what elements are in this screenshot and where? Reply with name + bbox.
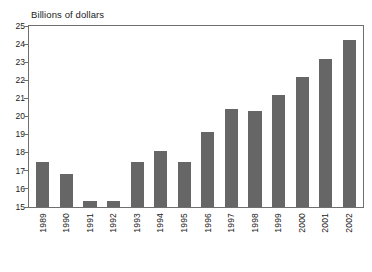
x-axis-tick: 2001	[314, 209, 338, 271]
x-axis-tick-label: 1994	[156, 213, 165, 233]
x-axis-tick-label: 2002	[345, 213, 354, 233]
x-axis-tick-label: 1991	[86, 213, 95, 233]
x-axis-tick: 1998	[243, 209, 267, 271]
bar[interactable]	[178, 162, 191, 207]
bar[interactable]	[343, 40, 356, 207]
x-axis-tick: 2000	[290, 209, 314, 271]
x-axis-tick-label: 1995	[180, 213, 189, 233]
bar[interactable]	[60, 174, 73, 207]
x-axis-tick-label: 2000	[298, 213, 307, 233]
x-axis-tick: 1997	[220, 209, 244, 271]
bar-slot	[125, 26, 149, 207]
x-axis: 1989199019911992199319941995199619971998…	[29, 209, 363, 271]
x-axis-tick: 1994	[149, 209, 173, 271]
bar[interactable]	[201, 132, 214, 207]
y-axis: 1516171819202122232425	[0, 25, 28, 208]
bar-slot	[31, 26, 55, 207]
x-axis-tick-label: 1992	[109, 213, 118, 233]
bar[interactable]	[319, 59, 332, 207]
bar[interactable]	[36, 162, 49, 207]
bar[interactable]	[272, 95, 285, 207]
bar-slot	[314, 26, 338, 207]
x-axis-tick: 1999	[267, 209, 291, 271]
bar-slot	[55, 26, 79, 207]
bar-slot	[149, 26, 173, 207]
x-axis-tick-label: 2001	[321, 213, 330, 233]
x-axis-tick: 2002	[338, 209, 362, 271]
x-axis-tick: 1996	[196, 209, 220, 271]
x-axis-tick-label: 1993	[133, 213, 142, 233]
x-axis-tick-label: 1997	[227, 213, 236, 233]
bar-slot	[220, 26, 244, 207]
bar-chart: Billions of dollars 15161718192021222324…	[0, 0, 372, 272]
bar-slot	[172, 26, 196, 207]
x-axis-tick-label: 1998	[251, 213, 260, 233]
bar[interactable]	[154, 151, 167, 207]
bar-slot	[102, 26, 126, 207]
bar[interactable]	[131, 162, 144, 207]
bar[interactable]	[248, 111, 261, 207]
bar-slot	[338, 26, 362, 207]
bar[interactable]	[83, 201, 96, 207]
bar-slot	[267, 26, 291, 207]
bar[interactable]	[296, 77, 309, 207]
bars-container	[29, 26, 363, 207]
bar[interactable]	[107, 201, 120, 207]
bar[interactable]	[225, 109, 238, 207]
bar-slot	[78, 26, 102, 207]
x-axis-tick: 1991	[78, 209, 102, 271]
bar-slot	[290, 26, 314, 207]
x-axis-tick-label: 1999	[274, 213, 283, 233]
x-axis-tick-label: 1990	[62, 213, 71, 233]
x-axis-tick: 1995	[172, 209, 196, 271]
bar-slot	[243, 26, 267, 207]
x-axis-tick: 1992	[102, 209, 126, 271]
bar-slot	[196, 26, 220, 207]
x-axis-tick-label: 1989	[39, 213, 48, 233]
x-axis-tick: 1990	[55, 209, 79, 271]
x-axis-tick-label: 1996	[204, 213, 213, 233]
y-axis-title: Billions of dollars	[31, 9, 104, 20]
x-axis-tick: 1993	[125, 209, 149, 271]
x-axis-tick: 1989	[31, 209, 55, 271]
